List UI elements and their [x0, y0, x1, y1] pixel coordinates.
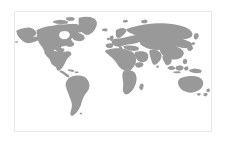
world-map-figure — [0, 0, 225, 142]
map-panel — [14, 11, 212, 132]
world-map-svg — [15, 12, 211, 131]
